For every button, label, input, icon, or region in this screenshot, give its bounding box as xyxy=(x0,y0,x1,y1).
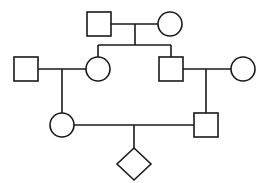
male-square-III-2 xyxy=(194,113,218,137)
female-circle-I-2 xyxy=(158,12,182,36)
male-square-I-1 xyxy=(87,12,111,36)
unknown-sex-diamond-IV-1 xyxy=(117,148,151,180)
female-circle-II-2 xyxy=(86,57,110,81)
male-square-II-1 xyxy=(14,57,38,81)
pedigree-chart xyxy=(0,0,269,183)
female-circle-II-4 xyxy=(231,57,255,81)
female-circle-III-1 xyxy=(50,113,74,137)
male-square-II-3 xyxy=(159,57,183,81)
